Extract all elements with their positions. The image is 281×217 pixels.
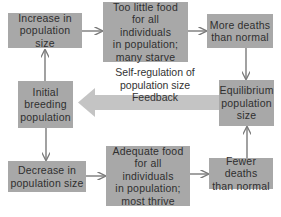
node-label: Decrease in population size bbox=[10, 164, 83, 189]
node-adequate-food: Adequate food for all individuals in pop… bbox=[106, 146, 190, 206]
node-too-little-food: Too little food for all individuals in p… bbox=[103, 2, 188, 62]
feedback-title: Self-regulation of population size bbox=[95, 66, 215, 91]
feedback-label: Feedback bbox=[95, 91, 215, 104]
node-label: Too little food for all individuals in p… bbox=[105, 1, 186, 64]
node-equilibrium-population: Equilibrium population size bbox=[219, 80, 274, 126]
node-increase-population: Increase in population size bbox=[8, 13, 82, 48]
node-label: Adequate food for all individuals in pop… bbox=[108, 145, 188, 208]
node-decrease-population: Decrease in population size bbox=[8, 161, 86, 192]
node-label: Initial breeding population bbox=[20, 86, 70, 124]
node-label: Increase in population size bbox=[10, 12, 80, 50]
node-more-deaths: More deaths than normal bbox=[207, 14, 273, 48]
node-label: More deaths than normal bbox=[210, 19, 271, 44]
node-label: Equilibrium population size bbox=[219, 84, 273, 122]
node-label: Fewer deaths than normal bbox=[211, 155, 271, 193]
node-initial-breeding-population: Initial breeding population bbox=[18, 81, 73, 128]
node-fewer-deaths: Fewer deaths than normal bbox=[209, 158, 273, 189]
